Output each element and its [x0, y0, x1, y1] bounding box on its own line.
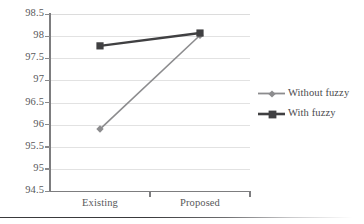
legend-label-with-fuzzy: With fuzzy: [288, 108, 336, 119]
y-axis-tick: [45, 146, 50, 147]
y-axis-tick: [45, 58, 50, 59]
legend-item-with-fuzzy[interactable]: With fuzzy: [258, 103, 362, 123]
y-axis-tick: [45, 102, 50, 103]
series-line: [100, 33, 200, 46]
legend-item-without-fuzzy[interactable]: Without fuzzy: [258, 83, 362, 103]
data-point-square-marker: [96, 42, 103, 49]
y-axis-tick: [45, 168, 50, 169]
x-axis-end-cap: [249, 191, 250, 197]
page-bottom-rule: [0, 217, 364, 218]
series-line: [100, 35, 200, 129]
x-axis-boundary-tick: [149, 191, 150, 197]
square-marker-icon: [258, 106, 285, 120]
x-axis-category-label: Proposed: [150, 197, 250, 208]
y-axis-tick: [45, 124, 50, 125]
y-axis-tick: [45, 191, 50, 192]
x-axis-category-label: Existing: [50, 197, 150, 208]
data-point-square-marker: [196, 29, 203, 36]
chart-legend: Without fuzzy With fuzzy: [258, 83, 362, 123]
y-axis-tick: [45, 36, 50, 37]
diamond-marker-icon: [258, 86, 285, 100]
line-chart-figure: 98.59897.59796.59695.59594.5 ExistingPro…: [0, 0, 364, 224]
y-axis-tick: [45, 80, 50, 81]
legend-label-without-fuzzy: Without fuzzy: [288, 88, 349, 99]
y-axis-tick: [45, 14, 50, 15]
